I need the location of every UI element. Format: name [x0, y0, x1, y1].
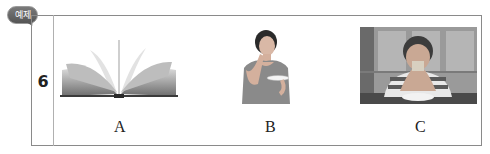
option-a-image [60, 38, 178, 100]
option-a-label: A [114, 118, 126, 136]
open-book-icon [60, 38, 178, 100]
option-b-label: B [265, 118, 276, 136]
option-b-image [238, 28, 294, 106]
option-c-image [360, 27, 477, 104]
number-column-divider [53, 15, 54, 146]
woman-drinking-icon [238, 28, 294, 106]
option-c-label: C [415, 118, 426, 136]
question-number: 6 [36, 72, 50, 91]
boy-eating-photo [360, 27, 477, 104]
